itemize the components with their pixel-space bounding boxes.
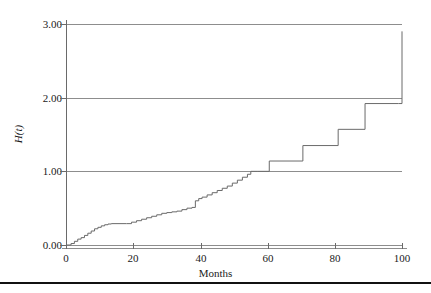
y-axis-tick-mark-1	[60, 171, 66, 172]
gridline-y-0	[66, 245, 402, 246]
plot-area	[66, 24, 402, 245]
y-axis-labels-group: 3.00 2.00 1.00 0.00 H(t)	[0, 0, 62, 293]
y-axis-line	[66, 20, 67, 249]
y-axis-title: H(t)	[12, 104, 24, 164]
x-axis-tick-label-60: 60	[248, 253, 288, 264]
y-axis-tick-label-1: 1.00	[6, 166, 62, 177]
x-axis-tick-mark-0	[66, 243, 67, 249]
x-axis-tick-mark-20	[133, 243, 134, 249]
x-axis-title: Months	[0, 267, 431, 279]
x-axis-tick-label-20: 20	[113, 253, 153, 264]
x-axis-tick-mark-100	[402, 243, 403, 249]
y-axis-tick-label-2: 2.00	[6, 93, 62, 104]
x-axis-tick-mark-80	[335, 243, 336, 249]
x-axis-tick-label-0: 0	[46, 253, 86, 264]
x-axis-tick-mark-60	[268, 243, 269, 249]
y-axis-tick-mark-3	[60, 24, 66, 25]
x-axis-tick-label-80: 80	[315, 253, 355, 264]
gridline-y-2	[66, 98, 402, 99]
gridline-y-3	[66, 24, 402, 25]
y-axis-tick-label-3: 3.00	[6, 19, 62, 30]
y-axis-tick-mark-2	[60, 98, 66, 99]
y-axis-tick-label-0: 0.00	[6, 240, 62, 251]
bottom-divider-rule	[0, 282, 431, 284]
x-axis-tick-label-40: 40	[181, 253, 221, 264]
x-axis-tick-label-100: 100	[382, 253, 422, 264]
x-axis-tick-mark-40	[201, 243, 202, 249]
figure-cumulative-hazard-plot: 3.00 2.00 1.00 0.00 H(t) 0 20 40 60 80 1…	[0, 0, 431, 293]
x-axis-line	[62, 248, 407, 249]
gridline-y-1	[66, 171, 402, 172]
